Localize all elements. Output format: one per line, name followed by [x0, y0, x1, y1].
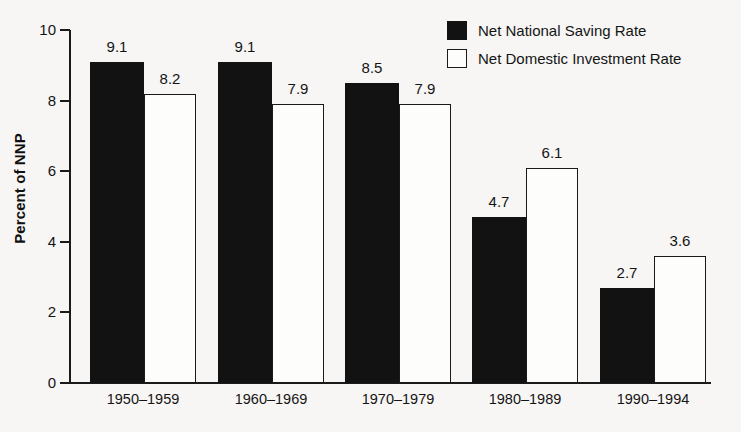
- x-axis-label: 1970–1979: [325, 392, 471, 408]
- bar: [218, 62, 272, 383]
- legend-item: Net National Saving Rate: [447, 18, 681, 43]
- legend-swatch-icon: [447, 49, 467, 68]
- y-axis-tick-label: 6: [14, 163, 56, 178]
- y-axis-tick-label: 8: [14, 93, 56, 108]
- bar: [526, 168, 578, 383]
- x-axis-label: 1950–1959: [70, 392, 216, 408]
- legend-label: Net Domestic Investment Rate: [478, 51, 681, 66]
- legend-swatch-icon: [447, 21, 467, 40]
- bar-value-label: 8.2: [132, 71, 208, 86]
- bar-value-label: 7.9: [260, 81, 336, 96]
- y-axis-tick-label: 10: [14, 22, 56, 37]
- x-axis-label: 1990–1994: [580, 392, 726, 408]
- bar-value-label: 9.1: [78, 39, 156, 54]
- bar-value-label: 7.9: [387, 81, 463, 96]
- bar-value-label: 6.1: [514, 145, 590, 160]
- y-axis-tick-label: 2: [14, 304, 56, 319]
- bar: [600, 288, 654, 383]
- bar: [144, 94, 196, 383]
- plot-area: 9.18.29.17.98.57.94.76.12.73.6: [70, 30, 710, 383]
- bar-chart: Percent of NNP 1086420 9.18.29.17.98.57.…: [0, 0, 741, 432]
- bar: [654, 256, 706, 383]
- legend-label: Net National Saving Rate: [478, 23, 646, 38]
- y-axis-tick-label: 0: [14, 375, 56, 390]
- bar: [472, 217, 526, 383]
- x-axis-label: 1980–1989: [452, 392, 598, 408]
- bar: [272, 104, 324, 383]
- chart-legend: Net National Saving RateNet Domestic Inv…: [447, 18, 681, 74]
- bar-value-label: 3.6: [642, 233, 718, 248]
- bar-value-label: 9.1: [206, 39, 284, 54]
- y-axis-tick-label: 4: [14, 234, 56, 249]
- bar: [345, 83, 399, 383]
- bar: [90, 62, 144, 383]
- x-axis-label: 1960–1969: [198, 392, 344, 408]
- legend-item: Net Domestic Investment Rate: [447, 46, 681, 71]
- bar-value-label: 8.5: [333, 60, 411, 75]
- bar: [399, 104, 451, 383]
